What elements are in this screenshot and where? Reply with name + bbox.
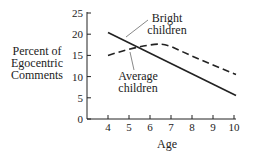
annotation-bright-children: Bright children <box>126 11 187 37</box>
x-tick-7: 7 <box>168 121 174 133</box>
y-axis-label: Percent of Egocentric Comments <box>11 44 63 82</box>
x-tick-4: 4 <box>105 121 111 133</box>
annotation-average-children: Average children <box>118 52 158 95</box>
annotation-average-line-2: children <box>118 81 157 95</box>
y-tick-20: 20 <box>72 28 84 40</box>
x-tick-6: 6 <box>147 121 153 133</box>
y-tick-10: 10 <box>72 71 84 83</box>
y-tick-25: 25 <box>72 7 84 19</box>
x-tick-10: 10 <box>229 121 241 133</box>
x-tick-9: 9 <box>210 121 216 133</box>
y-tick-0: 0 <box>78 113 84 125</box>
line-chart: 0 5 10 15 20 25 4 5 6 7 8 9 10 Age Perce… <box>0 0 258 155</box>
x-tick-8: 8 <box>189 121 195 133</box>
x-ticks <box>108 115 234 119</box>
x-tick-5: 5 <box>126 121 132 133</box>
y-axis-label-line-3: Comments <box>11 68 63 82</box>
y-tick-5: 5 <box>78 92 84 104</box>
annotation-bright-line-2: children <box>147 23 186 37</box>
y-tick-15: 15 <box>72 49 84 61</box>
x-tick-labels: 4 5 6 7 8 9 10 <box>105 121 240 133</box>
y-tick-labels: 0 5 10 15 20 25 <box>72 7 84 125</box>
y-ticks <box>87 13 91 119</box>
x-axis-label: Age <box>157 137 177 151</box>
